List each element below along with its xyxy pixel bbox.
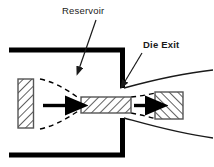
exit-streamline-upper: [131, 93, 156, 97]
converging-streamline-lower: [40, 110, 80, 129]
die-land-material: [81, 97, 131, 113]
die-swell-curve-upper: [124, 70, 213, 88]
piston-block: [18, 79, 34, 128]
diagram-canvas: Reservoir Die Exit: [0, 0, 214, 167]
reservoir-leader-line: [79, 20, 96, 69]
die-exit-label: Die Exit: [143, 39, 180, 50]
extrusion-diagram: Reservoir Die Exit: [0, 0, 214, 167]
extrudate-body: [155, 92, 183, 119]
die-swell-curve-lower: [124, 118, 213, 138]
extrudate-block: [155, 92, 183, 119]
exit-streamline-lower: [131, 113, 156, 119]
die-exit-leader-line: [124, 53, 142, 83]
die-land-body: [81, 97, 131, 113]
converging-streamline-upper: [40, 79, 80, 99]
reservoir-label: Reservoir: [62, 5, 104, 16]
piston-block-body: [18, 79, 34, 128]
